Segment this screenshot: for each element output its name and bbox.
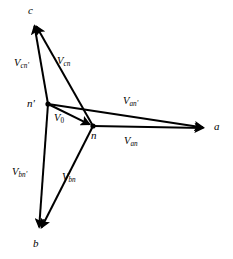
node-label-c: c xyxy=(28,5,33,16)
phasor-diagram-figure: c a b n' n Vcn' Vcn Van' Van V0 Vbn' Vbn xyxy=(0,0,233,259)
vector-line-van xyxy=(93,126,203,128)
vector-label-vcn-sub: cn xyxy=(63,60,70,68)
vector-label-van: Van xyxy=(124,136,138,147)
vector-label-van-sub: an xyxy=(130,140,137,148)
vector-line-vbnp xyxy=(39,104,48,227)
vector-line-vcnp xyxy=(35,26,49,104)
node-dot-n xyxy=(90,123,95,128)
vector-label-vbnp: Vbn' xyxy=(12,167,27,178)
vector-label-vcn: Vcn xyxy=(57,56,70,67)
node-label-b: b xyxy=(33,238,39,249)
vector-label-vanp-sub: an' xyxy=(129,100,138,108)
vector-line-vcn xyxy=(37,27,94,127)
vector-label-vbn-sub: bn xyxy=(68,176,75,184)
vector-label-vbn: Vbn xyxy=(62,172,76,183)
vector-label-vbnp-sub: bn' xyxy=(18,171,27,179)
phasor-diagram-canvas xyxy=(0,0,233,259)
vector-label-vanp: Van' xyxy=(123,96,138,107)
node-label-n: n xyxy=(91,130,97,141)
vector-label-vcnp: Vcn' xyxy=(14,58,29,69)
vector-label-v0: V0 xyxy=(54,113,64,124)
vector-label-v0-sub: 0 xyxy=(60,117,64,125)
node-label-n-prime: n' xyxy=(27,98,35,109)
node-label-a: a xyxy=(214,121,220,132)
vector-label-vcnp-sub: cn' xyxy=(20,62,29,70)
node-dot-n-prime xyxy=(45,101,50,106)
